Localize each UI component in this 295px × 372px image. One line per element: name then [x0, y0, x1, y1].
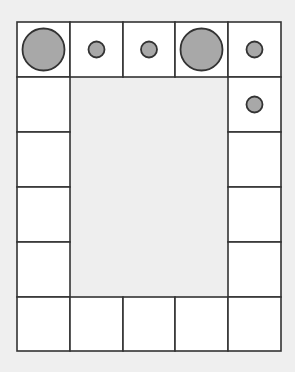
- board-cell: [17, 242, 70, 297]
- board-cell: [123, 22, 175, 77]
- board-cell: [17, 297, 70, 351]
- board-cell: [228, 242, 281, 297]
- small-circle-token: [247, 97, 263, 113]
- board-cell: [228, 22, 281, 77]
- board-cell: [123, 297, 175, 351]
- small-circle-token: [247, 42, 263, 58]
- large-circle-token: [23, 29, 65, 71]
- board-cell: [17, 132, 70, 187]
- board-cell: [175, 22, 228, 77]
- board-cell: [175, 297, 228, 351]
- board-cell: [228, 77, 281, 132]
- board-cell: [17, 187, 70, 242]
- board-diagram: [0, 0, 295, 372]
- small-circle-token: [89, 42, 105, 58]
- board-cell: [17, 77, 70, 132]
- board-cell: [228, 132, 281, 187]
- board-cell: [228, 187, 281, 242]
- small-circle-token: [141, 42, 157, 58]
- board-cell: [228, 297, 281, 351]
- inner-area: [70, 77, 228, 297]
- board-cell: [17, 22, 70, 77]
- board-cell: [70, 22, 123, 77]
- large-circle-token: [181, 29, 223, 71]
- board-cell: [70, 297, 123, 351]
